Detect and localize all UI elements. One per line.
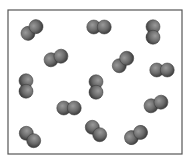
atom-icon [89,85,103,99]
atom-icon [67,101,81,115]
particle-diagram [0,0,186,160]
molecule [87,20,112,34]
atom-icon [97,20,111,34]
molecule [19,74,33,99]
molecule [150,63,175,77]
molecule [146,20,160,45]
molecule [57,101,82,115]
atom-icon [160,63,174,77]
atom-icon [146,30,160,44]
atom-icon [19,84,33,98]
molecule [89,75,103,100]
